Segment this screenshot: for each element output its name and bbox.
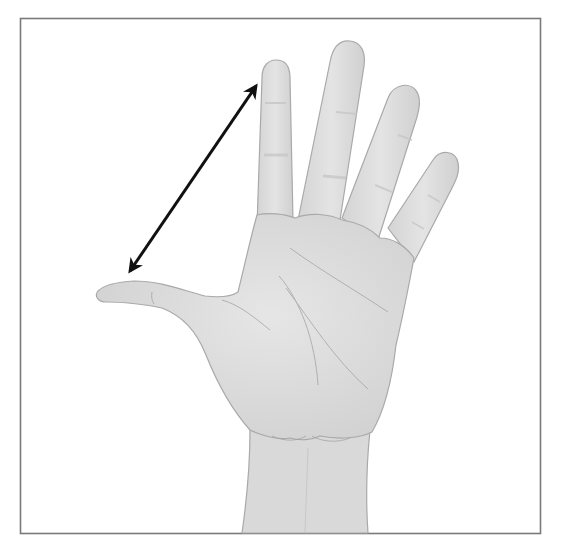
hand-span-figure xyxy=(0,0,563,550)
index-finger xyxy=(257,60,293,226)
